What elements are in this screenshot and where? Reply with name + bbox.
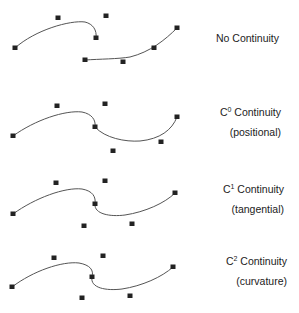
control-point-icon	[93, 125, 98, 130]
control-point-icon	[90, 275, 95, 280]
label-suffix: Continuity	[234, 183, 284, 195]
control-point-icon	[52, 256, 57, 261]
control-point-icon	[83, 58, 88, 63]
control-point-icon	[171, 265, 176, 270]
bezier-curve-1	[15, 22, 96, 48]
label-c0-continuity: C0 Continuity	[220, 106, 281, 118]
sublabel-positional: (positional)	[230, 126, 281, 138]
control-point-icon	[121, 60, 126, 65]
control-point-icon	[101, 254, 106, 259]
control-point-icon	[11, 134, 16, 139]
control-point-icon	[173, 191, 178, 196]
control-point-icon	[82, 224, 87, 229]
sublabel-curvature: (curvature)	[236, 275, 287, 287]
control-point-icon	[104, 14, 109, 19]
control-point-icon	[56, 16, 61, 21]
control-point-icon	[159, 140, 164, 145]
control-point-icon	[128, 294, 133, 299]
label-text: No Continuity	[216, 32, 279, 44]
label-suffix: Continuity	[237, 255, 287, 267]
control-point-icon	[175, 115, 180, 120]
control-point-icon	[13, 46, 18, 51]
control-point-icon	[111, 149, 116, 154]
sublabel-tangential: (tangential)	[231, 203, 284, 215]
bezier-curve-2	[85, 28, 177, 60]
control-point-icon	[94, 36, 99, 41]
control-point-icon	[80, 296, 85, 301]
control-point-icon	[55, 104, 60, 109]
label-c1-continuity: C1 Continuity	[223, 183, 284, 195]
panel-c0	[11, 102, 180, 154]
control-point-icon	[175, 26, 180, 31]
label-no-continuity: No Continuity	[216, 32, 279, 44]
control-point-icon	[152, 46, 157, 51]
control-point-icon	[103, 102, 108, 107]
panel-c2	[10, 254, 176, 301]
panel-c1	[11, 179, 178, 229]
bezier-curve-2	[92, 267, 173, 290]
bezier-curve-2	[95, 117, 177, 141]
control-point-icon	[11, 212, 16, 217]
panel-no-continuity	[13, 14, 180, 65]
bezier-curve-2	[95, 193, 175, 216]
control-point-icon	[10, 285, 15, 290]
label-suffix: Continuity	[231, 106, 281, 118]
control-point-icon	[93, 202, 98, 207]
bezier-curve-1	[13, 189, 95, 214]
control-point-icon	[130, 222, 135, 227]
label-c2-continuity: C2 Continuity	[226, 255, 287, 267]
control-point-icon	[54, 181, 59, 186]
bezier-curve-1	[12, 263, 92, 287]
bezier-curve-1	[13, 112, 95, 136]
control-point-icon	[103, 179, 108, 184]
